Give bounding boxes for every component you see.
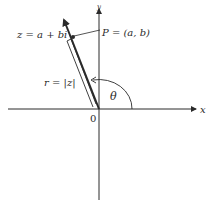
theta-label: θ xyxy=(110,90,117,103)
z-label: z = a + bi xyxy=(16,29,67,40)
x-axis-label: x xyxy=(200,104,206,115)
origin-label: 0 xyxy=(90,113,96,124)
point-label: P = (a, b) xyxy=(101,27,150,38)
y-axis-label: y xyxy=(96,3,102,11)
modulus-label: r = |z| xyxy=(44,77,76,89)
point-p-leader xyxy=(74,30,100,36)
vector-z xyxy=(64,20,99,109)
modulus-band-left xyxy=(67,41,93,107)
modulus-band-cap xyxy=(67,39,71,41)
complex-plane-diagram: y x 0 z = a + bi P = (a, b) r = |z| θ xyxy=(0,0,211,200)
